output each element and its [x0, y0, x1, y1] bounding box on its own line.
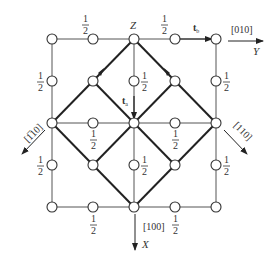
- svg-text:1: 1: [173, 128, 178, 139]
- svg-text:1: 1: [38, 70, 43, 81]
- lattice-diagram: Z 1 2 1 2 1 2 1 2 1 2 1: [0, 0, 277, 266]
- svg-text:1: 1: [142, 154, 147, 165]
- svg-text:2: 2: [224, 166, 229, 177]
- z-label: Z: [130, 19, 137, 31]
- half-label: 1 2: [37, 154, 44, 177]
- ta-label: ta: [122, 95, 128, 107]
- svg-text:2: 2: [173, 140, 178, 151]
- svg-text:2: 2: [142, 82, 147, 93]
- svg-text:2: 2: [91, 225, 96, 236]
- svg-text:2: 2: [142, 166, 147, 177]
- svg-text:2: 2: [38, 82, 43, 93]
- tb-label: tb: [193, 22, 199, 34]
- svg-text:2: 2: [173, 225, 178, 236]
- svg-text:2: 2: [38, 166, 43, 177]
- half-label: 1 2: [223, 154, 230, 177]
- svg-text:2: 2: [162, 25, 167, 36]
- half-label: 1 2: [90, 213, 97, 236]
- y-axis-label: Y: [253, 45, 261, 57]
- svg-text:1: 1: [224, 154, 229, 165]
- half-label: 1 2: [141, 154, 148, 177]
- svg-text:2: 2: [83, 25, 88, 36]
- half-label: 1 2: [172, 128, 179, 151]
- svg-text:1: 1: [224, 70, 229, 81]
- svg-text:1: 1: [91, 213, 96, 224]
- dir-1bar10-label: [1̅10]: [22, 122, 45, 145]
- svg-text:1: 1: [83, 13, 88, 24]
- x-axis-label: X: [141, 238, 150, 250]
- half-label: 1 2: [161, 13, 168, 36]
- x-direction-label: [100]: [143, 221, 165, 232]
- y-direction-label: [010]: [231, 24, 253, 35]
- half-label: 1 2: [223, 70, 230, 93]
- svg-text:1: 1: [162, 13, 167, 24]
- svg-text:1: 1: [173, 213, 178, 224]
- svg-text:1: 1: [91, 128, 96, 139]
- half-label: 1 2: [172, 213, 179, 236]
- half-label: 1 2: [82, 13, 89, 36]
- dir-110-label: [110]: [232, 120, 255, 143]
- svg-text:2: 2: [224, 82, 229, 93]
- half-label: 1 2: [90, 128, 97, 151]
- half-label: 1 2: [141, 70, 148, 93]
- svg-text:2: 2: [91, 140, 96, 151]
- svg-text:1: 1: [142, 70, 147, 81]
- half-label: 1 2: [37, 70, 44, 93]
- svg-text:1: 1: [38, 154, 43, 165]
